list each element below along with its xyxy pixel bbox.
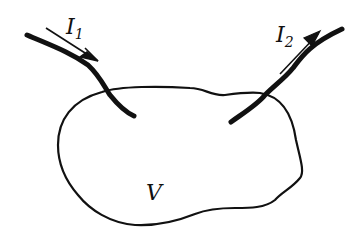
- current-label-2: I2: [275, 22, 294, 50]
- diagram-svg: I1 I2 V: [0, 0, 364, 239]
- diagram-canvas: I1 I2 V: [0, 0, 364, 239]
- wire-1: [27, 35, 134, 116]
- volume-label: V: [146, 180, 164, 205]
- current-label-1: I1: [65, 14, 84, 42]
- volume-boundary: [58, 87, 302, 225]
